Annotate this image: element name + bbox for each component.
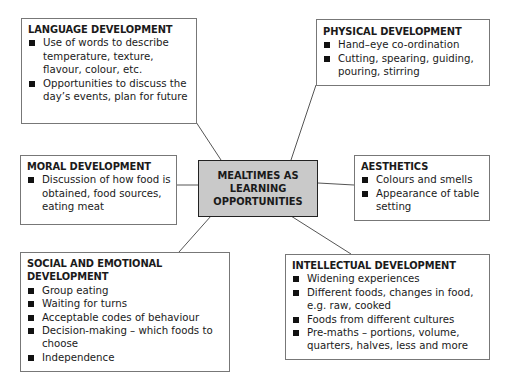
list-item: Colours and smells — [361, 173, 484, 186]
node-moral-development: MORAL DEVELOPMENT Discussion of how food… — [20, 155, 177, 225]
node-title: INTELLECTUAL DEVELOPMENT — [292, 259, 484, 272]
central-topic-line: OPPORTUNITIES — [213, 195, 302, 208]
list-item: Acceptable codes of behaviour — [27, 311, 224, 324]
list-item: Widening experiences — [292, 272, 484, 285]
list-item: Appearance of table setting — [361, 187, 484, 214]
node-physical-development: PHYSICAL DEVELOPMENT Hand–eye co-ordinat… — [316, 19, 490, 86]
square-bullet-icon — [29, 40, 35, 46]
connector-physical — [291, 85, 316, 160]
square-bullet-icon — [293, 290, 299, 296]
node-title: PHYSICAL DEVELOPMENT — [323, 25, 484, 38]
node-title: AESTHETICS — [361, 160, 484, 173]
list-item: Foods from different cultures — [292, 313, 484, 326]
square-bullet-icon — [362, 177, 368, 183]
node-title: SOCIAL AND EMOTIONAL DEVELOPMENT — [27, 257, 177, 284]
list-item: Waiting for turns — [27, 297, 224, 310]
node-social-emotional-development: SOCIAL AND EMOTIONAL DEVELOPMENT Group e… — [20, 252, 230, 372]
square-bullet-icon — [293, 276, 299, 282]
list-item: Group eating — [27, 284, 224, 297]
square-bullet-icon — [28, 328, 34, 334]
connector-intellectual — [291, 216, 351, 254]
square-bullet-icon — [293, 330, 299, 336]
connector-aesthetics — [318, 183, 354, 185]
connector-social — [179, 216, 211, 252]
list-item: Different foods, changes in food, e.g. r… — [292, 286, 484, 313]
node-language-development: LANGUAGE DEVELOPMENT Use of words to des… — [21, 18, 197, 124]
square-bullet-icon — [29, 81, 35, 87]
square-bullet-icon — [293, 317, 299, 323]
square-bullet-icon — [28, 177, 34, 183]
list-item: Cutting, spearing, guiding, pouring, sti… — [323, 52, 484, 79]
central-topic-line: LEARNING — [213, 182, 302, 195]
list-item: Discussion of how food is obtained, food… — [27, 173, 171, 213]
node-title: LANGUAGE DEVELOPMENT — [28, 23, 191, 36]
list-item: Independence — [27, 351, 224, 364]
square-bullet-icon — [28, 301, 34, 307]
central-topic: MEALTIMES AS LEARNING OPPORTUNITIES — [198, 160, 318, 217]
list-item: Decision-making – which foods to choose — [27, 324, 224, 351]
square-bullet-icon — [324, 56, 330, 62]
list-item: Opportunities to discuss the day’s event… — [28, 77, 191, 104]
square-bullet-icon — [324, 42, 330, 48]
square-bullet-icon — [28, 288, 34, 294]
square-bullet-icon — [28, 315, 34, 321]
list-item: Hand–eye co-ordination — [323, 38, 484, 51]
square-bullet-icon — [362, 191, 368, 197]
list-item: Use of words to describe temperature, te… — [28, 36, 191, 76]
node-aesthetics: AESTHETICS Colours and smells Appearance… — [354, 155, 490, 221]
node-title: MORAL DEVELOPMENT — [27, 160, 171, 173]
connector-language — [196, 122, 221, 160]
list-item: Pre-maths – portions, volume, quarters, … — [292, 326, 484, 353]
node-intellectual-development: INTELLECTUAL DEVELOPMENT Widening experi… — [285, 254, 490, 360]
square-bullet-icon — [28, 355, 34, 361]
central-topic-line: MEALTIMES AS — [213, 169, 302, 182]
